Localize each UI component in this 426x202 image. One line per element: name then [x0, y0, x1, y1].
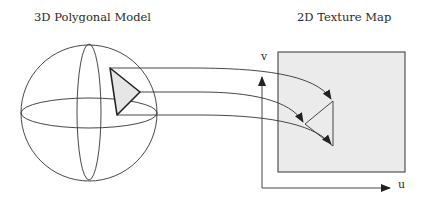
texture-map-square — [278, 52, 405, 172]
u-axis-label: u — [398, 178, 405, 191]
sphere-meridian — [77, 44, 101, 180]
v-axis-label: v — [261, 50, 267, 63]
texture-mapping-diagram — [0, 0, 426, 202]
sphere-outline — [21, 45, 157, 181]
sphere-model — [21, 44, 157, 181]
sphere-equator — [21, 98, 157, 128]
polygon-triangle — [110, 68, 140, 115]
